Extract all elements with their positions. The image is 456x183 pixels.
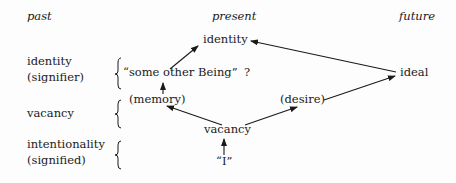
brace-vacancy	[115, 100, 121, 128]
arrow-ideal-to-identity	[251, 41, 396, 72]
diagram-canvas: past present future identity (signifier)…	[0, 0, 456, 183]
arrow-vacancy-to-desire	[245, 107, 297, 125]
brace-identity	[115, 58, 121, 89]
arrow-desire-to-ideal	[324, 76, 395, 100]
brace-intentionality	[115, 141, 121, 169]
arrow-being-to-identity	[170, 46, 198, 69]
diagram-lines	[0, 0, 456, 183]
arrow-vacancy-to-memory	[167, 106, 222, 125]
